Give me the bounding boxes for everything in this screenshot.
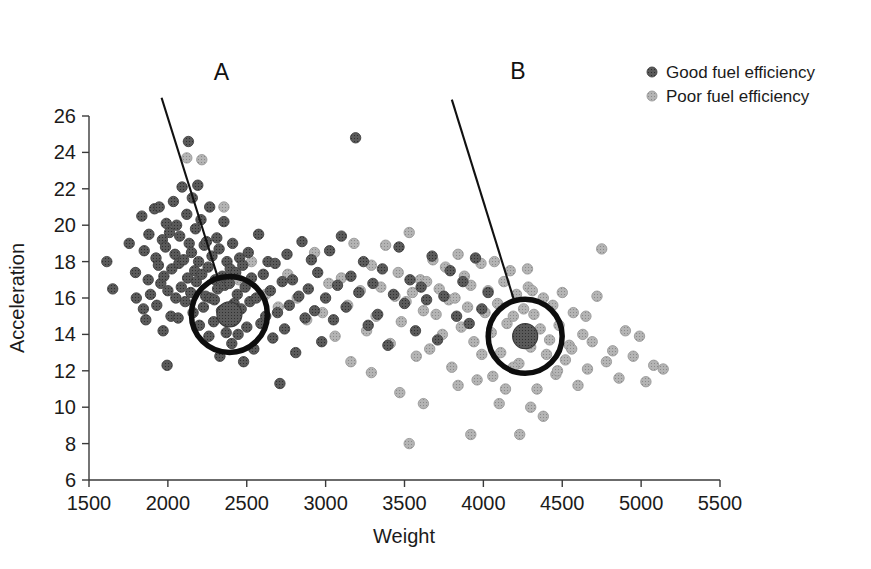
data-point <box>451 311 461 321</box>
data-point <box>175 231 185 241</box>
data-point <box>552 366 562 376</box>
legend-label: Good fuel efficiency <box>666 63 815 82</box>
data-point <box>450 293 460 303</box>
data-point <box>328 315 338 325</box>
data-point <box>532 384 542 394</box>
data-point <box>538 411 548 421</box>
data-point <box>399 298 409 308</box>
data-point <box>182 153 192 163</box>
data-point <box>313 267 323 277</box>
data-point <box>137 211 147 221</box>
data-point <box>395 387 405 397</box>
legend-marker <box>647 91 657 101</box>
data-point <box>393 267 403 277</box>
data-point <box>186 247 196 257</box>
data-point <box>233 329 243 339</box>
x-tick-label: 3000 <box>303 492 348 514</box>
x-tick-label: 1500 <box>67 492 112 514</box>
data-point <box>275 378 285 388</box>
data-point <box>526 402 536 412</box>
y-tick-label: 10 <box>54 396 76 418</box>
data-point <box>279 324 289 334</box>
data-point <box>581 311 591 321</box>
data-point <box>303 284 313 294</box>
data-point <box>265 286 275 296</box>
data-point <box>425 344 435 354</box>
data-point <box>139 246 149 256</box>
data-point <box>447 362 457 372</box>
legend-marker <box>647 67 657 77</box>
data-point <box>193 256 203 266</box>
data-point <box>198 302 208 312</box>
data-point <box>297 236 307 246</box>
data-point <box>108 284 118 294</box>
data-point <box>182 209 192 219</box>
data-point <box>277 276 287 286</box>
data-point <box>472 375 482 385</box>
data-point <box>204 331 214 341</box>
data-point <box>421 295 431 305</box>
y-axis-title: Acceleration <box>6 243 28 353</box>
data-point <box>488 371 498 381</box>
data-point <box>219 216 229 226</box>
data-point <box>431 309 441 319</box>
data-point <box>180 296 190 306</box>
data-point <box>209 295 219 305</box>
data-point <box>287 275 297 285</box>
data-point <box>162 360 172 370</box>
data-point <box>300 313 310 323</box>
data-point <box>634 331 644 341</box>
data-point <box>152 300 162 310</box>
data-point <box>453 249 463 259</box>
data-point <box>366 367 376 377</box>
data-point <box>470 253 480 263</box>
data-point <box>641 377 651 387</box>
data-point <box>396 317 406 327</box>
data-point <box>573 380 583 390</box>
data-point <box>350 133 360 143</box>
x-tick-label: 5500 <box>698 492 743 514</box>
data-point <box>306 255 316 265</box>
data-point <box>592 291 602 301</box>
data-point <box>203 262 213 272</box>
data-point <box>154 202 164 212</box>
data-point <box>477 349 487 359</box>
data-point <box>224 278 234 288</box>
data-point <box>346 357 356 367</box>
data-point <box>131 293 141 303</box>
x-tick-label: 3500 <box>382 492 427 514</box>
data-point <box>253 229 263 239</box>
data-point <box>309 306 319 316</box>
data-point <box>243 247 253 257</box>
data-point <box>268 333 278 343</box>
data-point <box>567 344 577 354</box>
data-point <box>227 238 237 248</box>
y-tick-label: 22 <box>54 178 76 200</box>
data-point <box>522 264 532 274</box>
data-point <box>614 373 624 383</box>
data-point <box>320 293 330 303</box>
data-point <box>219 202 229 212</box>
data-point <box>171 220 181 230</box>
x-tick-label: 5000 <box>619 492 664 514</box>
data-point <box>462 302 472 312</box>
data-point <box>445 266 455 276</box>
data-point <box>282 249 292 259</box>
data-point <box>529 309 539 319</box>
data-point <box>453 380 463 390</box>
data-point <box>272 307 282 317</box>
data-point <box>578 329 588 339</box>
data-point <box>418 306 428 316</box>
data-point <box>341 302 351 312</box>
data-point <box>628 351 638 361</box>
data-point <box>336 231 346 241</box>
chart-legend: Good fuel efficiencyPoor fuel efficiency <box>647 63 815 106</box>
data-point <box>500 384 510 394</box>
data-point <box>508 311 518 321</box>
y-tick-label: 24 <box>54 141 76 163</box>
data-point <box>405 275 415 285</box>
data-point <box>658 364 668 374</box>
data-point <box>294 291 304 301</box>
data-point <box>527 286 537 296</box>
data-point <box>284 300 294 310</box>
